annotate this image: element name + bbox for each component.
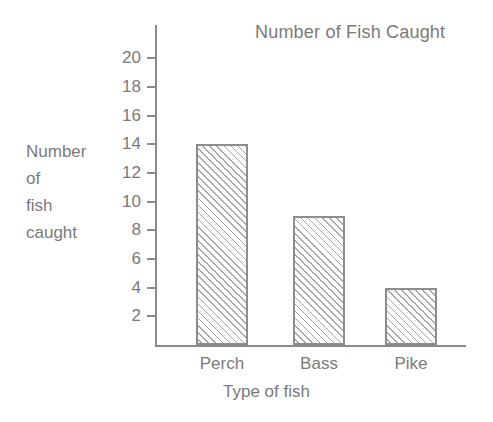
y-axis-tick [147, 258, 156, 260]
x-axis-label-pike: Pike [366, 354, 456, 374]
chart-title: Number of Fish Caught [255, 22, 445, 43]
y-axis-tick [147, 115, 156, 117]
y-axis-tick [147, 143, 156, 145]
x-axis-title: Type of fish [0, 382, 493, 402]
y-axis-tick [147, 172, 156, 174]
x-axis-label-bass: Bass [274, 354, 364, 374]
y-axis-tick-label: 8 [103, 221, 141, 238]
y-axis-tick-label: 14 [103, 135, 141, 152]
y-axis-tick [147, 315, 156, 317]
y-axis-tick-label: 4 [103, 279, 141, 296]
bar-chart: Number of Fish Caught Number of fish cau… [0, 0, 493, 422]
y-axis-title-line-4: caught [26, 219, 86, 246]
y-axis-tick-label: 16 [103, 107, 141, 124]
y-axis-tick-label: 10 [103, 193, 141, 210]
y-axis-tick-label: 6 [103, 250, 141, 267]
bar-bass[interactable] [293, 216, 345, 345]
x-axis-label-perch: Perch [177, 354, 267, 374]
y-axis-tick [147, 57, 156, 59]
y-axis-tick [147, 229, 156, 231]
y-axis-title-line-3: fish [26, 192, 86, 219]
y-axis-title-line-1: Number [26, 138, 86, 165]
y-axis-tick [147, 287, 156, 289]
y-axis-tick-label: 18 [103, 78, 141, 95]
bar-perch[interactable] [196, 144, 248, 345]
bar-pike[interactable] [385, 288, 437, 345]
y-axis-tick-label: 12 [103, 164, 141, 181]
y-axis-tick [147, 201, 156, 203]
y-axis-tick [147, 86, 156, 88]
y-axis-tick-label: 20 [103, 49, 141, 66]
y-axis-tick-label: 2 [103, 307, 141, 324]
y-axis-title: Number of fish caught [26, 138, 86, 246]
x-axis-line [155, 345, 466, 347]
y-axis-line [155, 25, 157, 347]
y-axis-title-line-2: of [26, 165, 86, 192]
